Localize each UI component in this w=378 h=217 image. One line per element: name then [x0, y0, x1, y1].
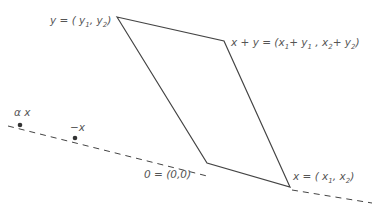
- minus-x-label: −x: [70, 121, 86, 133]
- alpha-x-label: α x: [14, 106, 31, 118]
- x-vertex-label: x = ( x1, x2): [292, 170, 354, 185]
- x-plus-y-vertex-label: x + y = (x1+ y1 , x2+ y2): [230, 36, 360, 51]
- dashed-line-right: [292, 190, 372, 203]
- origin-label: 0 = (0,0): [144, 168, 191, 180]
- parallelogram-diagram: y = ( y1, y2) x + y = (x1+ y1 , x2+ y2) …: [0, 0, 378, 217]
- alpha-x-point: [18, 123, 23, 128]
- y-vertex-label: y = ( y1, y2): [49, 14, 111, 29]
- minus-x-point: [73, 136, 78, 141]
